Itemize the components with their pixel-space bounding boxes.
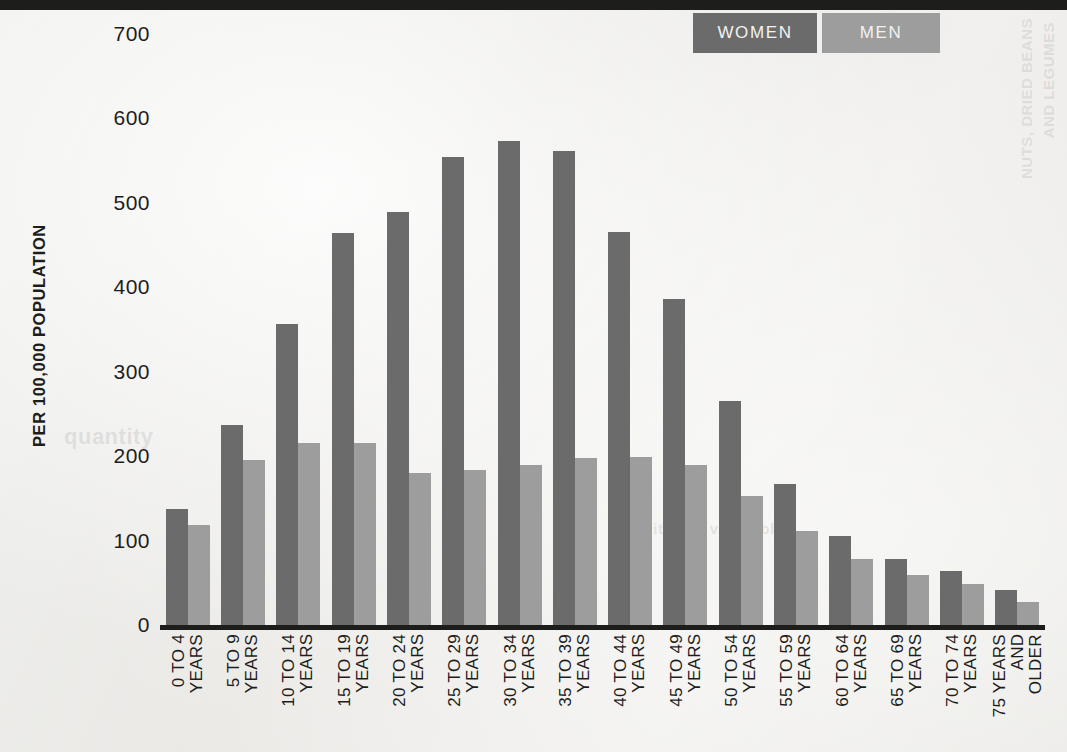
bar-group [437,34,492,625]
x-axis-tick-label-text: 55 TO 59 YEARS [778,634,814,707]
x-axis-tick-label-text: 60 TO 64 YEARS [834,634,870,707]
bar-women[interactable] [166,509,188,626]
bar-group [547,34,602,625]
y-axis-tick-400: 400 [113,275,150,299]
x-axis-tick-label: 10 TO 14 YEARS [271,634,326,752]
bar-women[interactable] [885,559,907,625]
bar-group [492,34,547,625]
bar-women[interactable] [332,233,354,625]
bar-group [160,34,215,625]
x-axis-tick-label: 60 TO 64 YEARS [824,634,879,752]
bar-group [934,34,989,625]
x-axis-tick-label: 55 TO 59 YEARS [768,634,823,752]
bar-group [990,34,1045,625]
x-axis-tick-label-text: 45 TO 49 YEARS [668,634,704,707]
x-axis-tick-label-text: 50 TO 54 YEARS [723,634,759,707]
bar-women[interactable] [276,324,298,625]
bar-women[interactable] [774,484,796,625]
bar-women[interactable] [498,141,520,625]
bar-women[interactable] [387,212,409,625]
bar-men[interactable] [464,470,486,625]
bar-men[interactable] [907,575,929,625]
bar-women[interactable] [553,151,575,625]
x-axis-tick-label-text: 10 TO 14 YEARS [280,634,316,707]
x-axis-tick-labels: 0 TO 4 YEARS5 TO 9 YEARS10 TO 14 YEARS15… [160,634,1045,752]
x-axis-tick-label: 50 TO 54 YEARS [713,634,768,752]
x-axis-tick-label: 15 TO 19 YEARS [326,634,381,752]
bar-men[interactable] [851,559,873,625]
y-axis-tick-0: 0 [138,613,150,637]
x-axis-tick-label-text: 5 TO 9 YEARS [225,634,261,693]
bar-men[interactable] [520,465,542,625]
bar-men[interactable] [962,584,984,625]
bar-group [879,34,934,625]
bar-women[interactable] [608,232,630,625]
x-axis-tick-label-text: 70 TO 74 YEARS [944,634,980,707]
y-axis-tick-100: 100 [113,529,150,553]
bar-plot-area [160,34,1045,625]
bar-men[interactable] [741,496,763,625]
bar-group [824,34,879,625]
bar-men[interactable] [685,465,707,625]
x-axis-tick-label: 65 TO 69 YEARS [879,634,934,752]
y-axis-tick-labels: 0100200300400500600700 [84,34,150,625]
bar-men[interactable] [243,460,265,625]
bar-men[interactable] [298,443,320,625]
x-axis-tick-label-text: 0 TO 4 YEARS [170,634,206,693]
x-axis-tick-label-text: 15 TO 19 YEARS [336,634,372,707]
y-axis-tick-700: 700 [113,22,150,46]
x-axis-tick-label-text: 35 TO 39 YEARS [557,634,593,707]
x-axis-baseline [160,625,1045,630]
x-axis-tick-label-text: 65 TO 69 YEARS [889,634,925,707]
bar-women[interactable] [442,157,464,625]
x-axis-tick-label-text: 75 YEARS AND OLDER [991,634,1045,717]
bar-women[interactable] [940,571,962,625]
y-axis-tick-500: 500 [113,191,150,215]
x-axis-tick-label: 75 YEARS AND OLDER [990,634,1045,752]
x-axis-tick-label-text: 30 TO 34 YEARS [502,634,538,707]
x-axis-tick-label-text: 20 TO 24 YEARS [391,634,427,707]
bar-group [271,34,326,625]
x-axis-tick-label: 70 TO 74 YEARS [934,634,989,752]
bar-group [658,34,713,625]
bar-women[interactable] [221,425,243,625]
bar-men[interactable] [575,458,597,625]
bar-women[interactable] [663,299,685,625]
x-axis-tick-label: 5 TO 9 YEARS [215,634,270,752]
x-axis-tick-label-text: 40 TO 44 YEARS [612,634,648,707]
bar-women[interactable] [829,536,851,625]
bar-men[interactable] [1017,602,1039,625]
x-axis-tick-label: 35 TO 39 YEARS [547,634,602,752]
x-axis-tick-label: 45 TO 49 YEARS [658,634,713,752]
bar-group [713,34,768,625]
bar-women[interactable] [719,401,741,625]
bar-group [768,34,823,625]
bar-women[interactable] [995,590,1017,625]
y-axis-tick-200: 200 [113,444,150,468]
y-axis-title: PER 100,000 POPULATION [26,186,52,486]
y-axis-tick-600: 600 [113,106,150,130]
x-axis-tick-label: 0 TO 4 YEARS [160,634,215,752]
page-top-rule [0,0,1067,10]
bar-men[interactable] [630,457,652,625]
bar-group [326,34,381,625]
bar-men[interactable] [188,525,210,625]
chart-page: AND LEGUMES NUTS, DRIED BEANS quantity o… [0,0,1067,752]
y-axis-tick-300: 300 [113,360,150,384]
bar-group [381,34,436,625]
x-axis-tick-label-text: 25 TO 29 YEARS [446,634,482,707]
bar-group [603,34,658,625]
x-axis-tick-label: 30 TO 34 YEARS [492,634,547,752]
x-axis-tick-label: 25 TO 29 YEARS [437,634,492,752]
x-axis-tick-label: 20 TO 24 YEARS [381,634,436,752]
bar-men[interactable] [409,473,431,625]
bar-men[interactable] [796,531,818,625]
bar-group [215,34,270,625]
x-axis-tick-label: 40 TO 44 YEARS [603,634,658,752]
bar-men[interactable] [354,443,376,625]
